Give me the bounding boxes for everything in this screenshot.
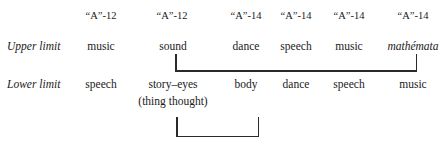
column-header-2: “A”-12 <box>157 9 188 23</box>
lower-cell-5: speech <box>333 77 364 91</box>
column-header-1: “A”-12 <box>86 9 117 23</box>
upper-cell-1: music <box>87 39 114 53</box>
lower-cell-2: story–eyes <box>148 77 197 91</box>
lower-bracket-bottom <box>176 136 259 138</box>
lower-bracket-left <box>176 117 178 137</box>
upper-bracket-left <box>175 54 177 71</box>
upper-cell-4: speech <box>280 39 311 53</box>
upper-cell-6: mathémata <box>387 39 438 53</box>
lower-cell-2-subtext: (thing thought) <box>138 94 207 108</box>
column-header-6: “A”-14 <box>398 9 429 23</box>
lower-cell-3: body <box>235 77 258 91</box>
upper-bracket-right <box>416 54 418 71</box>
lower-cell-1: speech <box>85 77 116 91</box>
upper-limit-label: Upper limit <box>7 39 60 53</box>
lower-limit-label: Lower limit <box>7 77 60 91</box>
column-header-3: “A”-14 <box>231 9 262 23</box>
lower-cell-6: music <box>399 77 426 91</box>
upper-bracket-bottom <box>175 70 417 72</box>
upper-cell-2: sound <box>159 39 186 53</box>
upper-cell-5: music <box>335 39 362 53</box>
column-header-4: “A”-14 <box>281 9 312 23</box>
upper-cell-3: dance <box>233 39 260 53</box>
lower-bracket-right <box>258 117 260 137</box>
lower-cell-4: dance <box>283 77 310 91</box>
column-header-5: “A”-14 <box>334 9 365 23</box>
